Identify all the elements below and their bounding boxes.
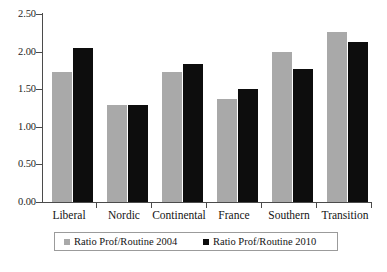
bar-2004-continental xyxy=(162,72,182,202)
y-axis-tick-label-2: 1.00 xyxy=(2,122,36,132)
square-swatch-black-icon xyxy=(203,239,209,245)
legend-item-2004: Ratio Prof/Routine 2004 xyxy=(64,235,177,249)
bar-2004-transition xyxy=(327,32,347,202)
x-axis-tick-mark xyxy=(206,203,207,208)
chart-legend: Ratio Prof/Routine 2004 Ratio Prof/Routi… xyxy=(54,232,338,251)
x-axis-line xyxy=(42,202,372,203)
x-axis-category-label-continental: Continental xyxy=(148,209,210,222)
y-axis-tick-label-3: 1.50 xyxy=(2,84,36,94)
x-axis-category-label-liberal: Liberal xyxy=(42,209,96,222)
x-axis-category-label-nordic: Nordic xyxy=(97,209,151,222)
bar-2010-southern xyxy=(293,69,313,202)
bar-2004-nordic xyxy=(107,105,127,202)
bar-2004-southern xyxy=(272,52,292,202)
y-axis-tick-label-0: 0.00 xyxy=(2,197,36,207)
bar-2010-transition xyxy=(348,42,368,202)
legend-label-2010: Ratio Prof/Routine 2010 xyxy=(213,236,316,248)
bar-2010-france xyxy=(238,89,258,202)
bar-2010-nordic xyxy=(128,105,148,202)
square-swatch-gray-icon xyxy=(64,239,70,245)
legend-label-2004: Ratio Prof/Routine 2004 xyxy=(74,236,177,248)
bar-2010-liberal xyxy=(73,48,93,202)
plot-area xyxy=(42,14,372,202)
x-axis-category-label-transition: Transition xyxy=(314,209,376,222)
y-axis-tick-label-1: 0.50 xyxy=(2,159,36,169)
y-axis-tick-label-4: 2.00 xyxy=(2,47,36,57)
legend-item-2010: Ratio Prof/Routine 2010 xyxy=(203,235,316,249)
bar-chart-figure: 0.00 0.50 1.00 1.50 2.00 2.50 xyxy=(0,0,387,272)
x-axis-category-label-southern: Southern xyxy=(262,209,316,222)
bar-2004-france xyxy=(217,99,237,202)
bar-2004-liberal xyxy=(52,72,72,202)
x-axis-tick-mark xyxy=(371,203,372,208)
x-axis-tick-mark xyxy=(96,203,97,208)
x-axis-category-label-france: France xyxy=(207,209,261,222)
y-axis-tick-label-5: 2.50 xyxy=(2,9,36,19)
x-axis-tick-mark xyxy=(261,203,262,208)
x-axis-tick-mark xyxy=(151,203,152,208)
caption-partial xyxy=(6,262,266,272)
bar-2010-continental xyxy=(183,64,203,202)
x-axis-tick-mark xyxy=(316,203,317,208)
